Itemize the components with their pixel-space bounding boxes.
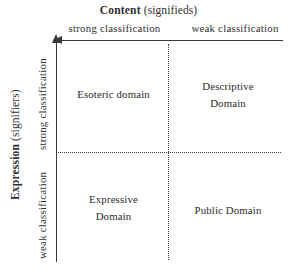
expression-axis-tick-weak: weak classification <box>36 172 48 259</box>
quadrant-label-bottom-left: Expressive Domain <box>60 191 167 224</box>
horizontal-axis-line <box>57 40 283 41</box>
content-axis-tick-strong: strong classification <box>62 22 167 34</box>
expression-axis-tick-strong: strong classification <box>36 58 48 150</box>
quadrant-label-line-1: Esoteric domain <box>60 86 167 103</box>
quadrant-label-line-2: Domain <box>60 208 167 225</box>
vertical-axis-line <box>56 40 57 262</box>
quadrant-label-line-2: Domain <box>172 95 284 112</box>
quadrant-label-line-1: Descriptive <box>172 78 284 95</box>
content-axis-heading-main: Content <box>100 4 141 16</box>
content-axis-heading-sub: (signifieds) <box>144 4 198 16</box>
classification-matrix-figure: Content (signifieds) strong classificati… <box>0 0 297 278</box>
quadrant-label-line-1: Expressive <box>60 191 167 208</box>
horizontal-dotted-divider <box>58 152 281 153</box>
content-axis-tick-weak: weak classification <box>180 22 290 34</box>
quadrant-label-top-right: Descriptive Domain <box>172 78 284 111</box>
expression-axis-heading: Expression (signifiers) <box>9 89 21 200</box>
quadrant-label-line-1: Public Domain <box>172 202 284 219</box>
quadrant-label-bottom-right: Public Domain <box>172 202 284 219</box>
vertical-axis-arrow-icon <box>52 34 60 43</box>
content-axis-heading: Content (signifieds) <box>0 4 297 17</box>
expression-axis-heading-main: Expression <box>9 144 21 200</box>
quadrant-label-top-left: Esoteric domain <box>60 86 167 103</box>
expression-axis-heading-sub: (signifiers) <box>9 89 21 141</box>
